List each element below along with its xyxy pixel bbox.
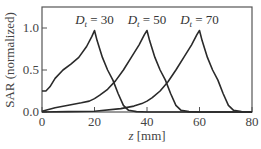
y-tick-label: 0.0 bbox=[23, 104, 39, 119]
y-tick-label: 1.0 bbox=[23, 20, 39, 35]
y-axis-ticks: 0.00.51.0 bbox=[23, 20, 47, 119]
dt-label: Dt = 30 bbox=[74, 12, 114, 29]
x-tick-label: 60 bbox=[193, 114, 206, 129]
x-tick-label: 80 bbox=[246, 114, 259, 129]
x-axis-title: z [mm] bbox=[127, 128, 165, 143]
dt-label: Dt = 50 bbox=[127, 12, 167, 29]
dt-label: Dt = 70 bbox=[179, 12, 219, 29]
y-tick-label: 0.5 bbox=[23, 62, 39, 77]
x-axis-ticks: 020406080 bbox=[39, 107, 259, 129]
sar-curve bbox=[42, 31, 252, 113]
sar-curve bbox=[42, 31, 252, 113]
sar-chart: 0.00.51.0 020406080 Dt = 30Dt = 50Dt = 7… bbox=[0, 0, 261, 149]
dt-annotations: Dt = 30Dt = 50Dt = 70 bbox=[74, 12, 219, 29]
x-tick-label: 20 bbox=[88, 114, 101, 129]
y-axis-title: SAR (normalized) bbox=[2, 12, 17, 108]
sar-curves bbox=[42, 31, 252, 113]
x-tick-label: 0 bbox=[39, 114, 46, 129]
sar-curve bbox=[42, 31, 252, 113]
x-tick-label: 40 bbox=[141, 114, 154, 129]
